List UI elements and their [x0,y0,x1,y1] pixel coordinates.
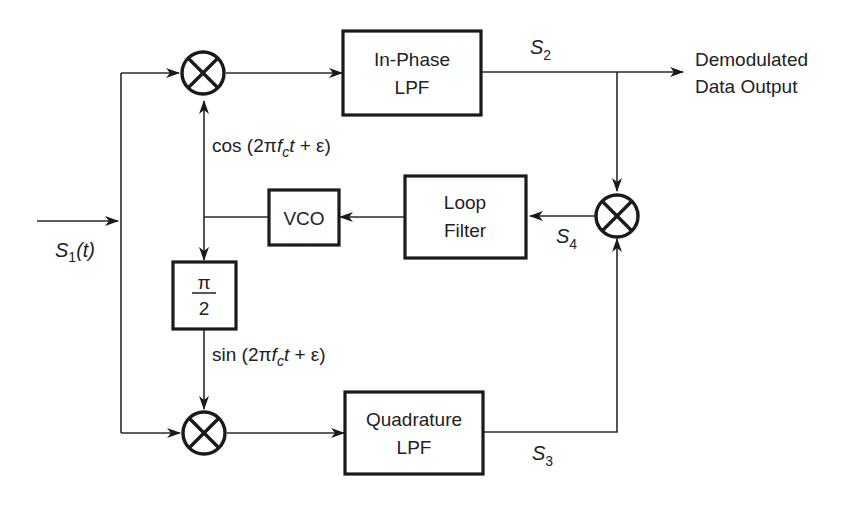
quadrature-lpf-label-2: LPF [397,437,432,458]
phase-shift-numerator: π [197,272,210,293]
quadrature-lpf-label-1: Quadrature [366,409,462,430]
vco-block: VCO [269,190,339,245]
inphase-lpf-label-2: LPF [395,77,430,98]
error-mixer [596,195,638,237]
s2-label: S2 [530,36,551,63]
s3-wire [483,239,617,432]
phase-shift-block: π 2 [173,262,236,329]
s4-label: S4 [556,225,577,252]
vco-label: VCO [283,208,324,229]
inphase-lpf-block: In-Phase LPF [343,31,481,115]
phase-shift-denominator: 2 [199,298,210,319]
quadrature-lpf-block: Quadrature LPF [345,392,483,474]
costas-loop-diagram: In-Phase LPF Quadrature LPF Loop Filter … [0,0,867,505]
top-mixer [182,52,224,94]
loop-filter-label-1: Loop [444,192,486,213]
output-label-1: Demodulated [695,49,808,70]
loop-filter-block: Loop Filter [405,176,526,258]
inphase-lpf-label-1: In-Phase [374,49,450,70]
loop-filter-label-2: Filter [444,220,487,241]
output-label-2: Data Output [695,76,798,97]
input-signal-label: S1(t) [55,239,95,265]
bottom-mixer [183,412,225,454]
cos-reference-label: cos (2πfct + ε) [212,135,331,160]
s3-label: S3 [532,442,553,469]
sin-reference-label: sin (2πfct + ε) [212,344,326,369]
